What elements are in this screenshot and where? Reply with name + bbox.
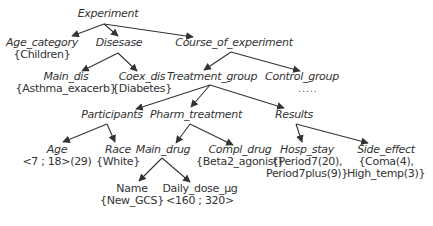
edge-results-side-effect xyxy=(296,124,368,143)
node-main-dis: Main_dis {Asthma_exacerb} xyxy=(16,71,117,95)
node-value: <7 ; 18>(29) xyxy=(22,156,91,168)
control-group-ellipsis: ..... xyxy=(298,84,317,94)
node-label: Pharm_treatment xyxy=(150,109,242,121)
edge-treatment-results xyxy=(210,85,284,108)
edge-main-drug-daily-dose xyxy=(162,158,190,182)
node-main-drug: Main_drug xyxy=(136,144,191,156)
edge-participants-age xyxy=(63,124,107,142)
node-hosp-stay: Hosp_stay {Period7(20), Period7plus(9)} xyxy=(266,144,348,180)
node-value: {New_GCS} xyxy=(100,195,164,207)
edge-course-control xyxy=(231,52,300,71)
edge-results-hosp-stay xyxy=(296,124,302,142)
edge-disease-coex-dis xyxy=(118,53,137,71)
node-label: Disesase xyxy=(96,37,143,49)
edge-pharm-compl-drug xyxy=(190,124,233,145)
node-label: Participants xyxy=(81,109,143,121)
node-value: {Children} xyxy=(6,49,78,61)
edge-course-treatment xyxy=(204,52,231,70)
node-control-group: Control_group xyxy=(265,71,339,83)
node-value-2: High_temp(3)} xyxy=(347,168,425,180)
node-label: Experiment xyxy=(78,8,139,20)
node-label: Main_drug xyxy=(136,144,191,156)
node-daily-dose: Daily_dose_µg <160 ; 320> xyxy=(162,183,237,207)
node-label: Control_group xyxy=(265,71,339,83)
node-label: Results xyxy=(275,109,313,121)
node-treatment-group: Treatment_group xyxy=(167,71,257,83)
node-value: {Diabetes} xyxy=(112,83,172,95)
node-age-category: Age_category {Children} xyxy=(6,37,78,61)
node-label: Treatment_group xyxy=(167,71,257,83)
node-value: <160 ; 320> xyxy=(162,195,237,207)
tree-diagram: Experiment Age_category {Children} Dises… xyxy=(0,0,433,226)
node-value: {Asthma_exacerb} xyxy=(16,83,117,95)
edge-disease-main-dis xyxy=(82,53,118,71)
node-results: Results xyxy=(275,109,313,121)
node-race: Race {White} xyxy=(96,144,140,168)
node-pharm-treatment: Pharm_treatment xyxy=(150,109,242,121)
node-course-of-experiment: Course_of_experiment xyxy=(175,37,292,49)
edge-participants-race xyxy=(107,124,115,142)
node-coex-dis: Coex_dis {Diabetes} xyxy=(112,71,172,95)
node-value-2: Period7plus(9)} xyxy=(266,168,348,180)
edge-experiment-age-category xyxy=(72,24,104,36)
node-value: {White} xyxy=(96,156,140,168)
node-label: Course_of_experiment xyxy=(175,37,292,49)
node-name: Name {New_GCS} xyxy=(100,183,164,207)
node-disease: Disesase xyxy=(96,37,143,49)
node-age: Age <7 ; 18>(29) xyxy=(22,144,91,168)
node-side-effect: Side_effect {Coma(4), High_temp(3)} xyxy=(347,144,425,180)
edge-pharm-main-drug xyxy=(176,124,190,143)
edge-main-drug-name xyxy=(139,158,162,181)
node-participants: Participants xyxy=(81,109,143,121)
node-experiment: Experiment xyxy=(78,8,139,20)
